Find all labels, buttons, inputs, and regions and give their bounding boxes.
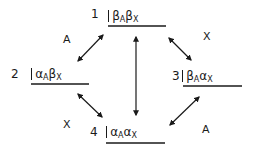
ket-bar — [182, 70, 183, 82]
level-1-number: 1 — [91, 8, 99, 20]
transition-label-1-2: A — [63, 34, 71, 45]
level-4-state: αAαX — [106, 126, 137, 142]
transition-arrow-2-4 — [78, 94, 102, 117]
transition-arrow-1-2 — [78, 35, 103, 61]
transition-arrow-3-4 — [170, 97, 199, 125]
ket-bar — [108, 10, 109, 22]
ket-bar — [106, 126, 107, 138]
level-3-state: βAαX — [182, 70, 213, 86]
level-1-state: βAβX — [108, 10, 139, 26]
transition-label-2-4: X — [63, 119, 71, 130]
level-3-number: 3 — [172, 70, 180, 82]
level-2-state: αAβX — [31, 68, 62, 84]
ket-bar — [31, 68, 32, 80]
level-2-number: 2 — [11, 68, 19, 80]
transition-label-1-3: X — [203, 31, 211, 42]
transition-label-3-4: A — [202, 124, 210, 135]
transition-arrow-1-3 — [169, 38, 191, 60]
level-4-number: 4 — [90, 126, 98, 138]
